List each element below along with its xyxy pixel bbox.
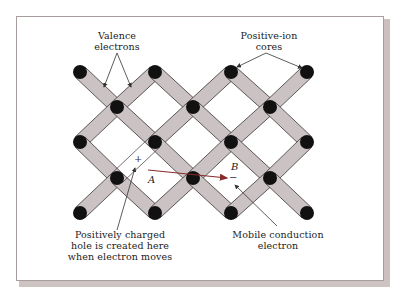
ion-cores [73,65,314,220]
label-line: cores [229,41,309,52]
point-a-label: A [148,174,155,185]
ion-core-node [148,65,162,79]
ion-core-node [73,135,87,149]
ion-core-node [110,100,124,114]
label-line: Valence [82,30,152,41]
ion-core-node [224,65,238,79]
positive-ion-cores-label: Positive-ion cores [229,30,309,52]
ion-core-node [300,65,314,79]
mobile-electron-label: Mobile conduction electron [228,229,328,251]
covalent-bonds [75,67,312,218]
ion-core-pointers [237,53,302,68]
ion-core-node [300,206,314,220]
label-line: when electron moves [60,251,180,262]
ion-core-node [224,206,238,220]
minus-sign: − [229,172,237,183]
ion-core-node [73,65,87,79]
valence-electrons-label: Valence electrons [82,30,152,52]
ion-core-node [224,135,238,149]
label-line: electron [228,240,328,251]
ion-core-node [186,171,200,185]
point-b-label: B [231,161,238,172]
ion-core-node [300,135,314,149]
label-line: Mobile conduction [228,229,328,240]
plus-sign: + [134,153,142,164]
ion-core-node [110,171,124,185]
ion-core-node [148,135,162,149]
hole-bond-edge [112,137,150,173]
label-line: Positive-ion [229,30,309,41]
ion-core-node [73,206,87,220]
label-line: hole is created here [60,240,180,251]
ion-core-node [263,171,277,185]
ion-core-node [186,100,200,114]
valence-pointers [104,53,131,87]
ion-core-node [148,206,162,220]
ion-core-node [263,100,277,114]
hole-label: Positively charged hole is created here … [60,229,180,262]
figure: Valence electrons Positive-ion cores Pos… [0,0,403,295]
label-line: Positively charged [60,229,180,240]
label-line: electrons [82,41,152,52]
